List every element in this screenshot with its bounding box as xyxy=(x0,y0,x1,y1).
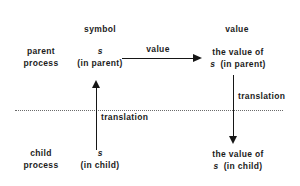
node-child-value-line1: the value of xyxy=(212,148,263,160)
right-translation-arrow-shaft xyxy=(233,75,234,137)
left-translation-arrow-head-icon xyxy=(92,80,100,88)
node-child-value: the value of s (in child) xyxy=(212,148,263,172)
node-parent-symbol-scope: (in parent) xyxy=(77,57,122,69)
row-label-child-process: child process xyxy=(23,147,58,171)
edge-label-right-translation: translation xyxy=(238,91,285,102)
left-translation-arrow-shaft xyxy=(96,87,97,150)
row-label-parent-line2: process xyxy=(23,57,58,69)
row-label-parent-line1: parent xyxy=(23,45,58,57)
edge-label-left-translation: translation xyxy=(101,112,148,123)
node-child-symbol-scope: (in child) xyxy=(81,159,120,171)
symbol-value-translation-diagram: symbol value parent process child proces… xyxy=(0,0,300,186)
column-header-value: value xyxy=(225,24,249,35)
node-child-value-name: s xyxy=(213,161,218,171)
node-parent-value-line2: s (in parent) xyxy=(210,58,266,70)
column-header-symbol: symbol xyxy=(84,24,116,35)
node-child-symbol: s (in child) xyxy=(81,147,120,171)
value-arrow-head-icon xyxy=(193,54,202,62)
row-label-child-line2: process xyxy=(23,159,58,171)
node-parent-value-scope: (in parent) xyxy=(220,59,265,69)
node-child-symbol-name: s xyxy=(81,147,120,159)
value-arrow-shaft xyxy=(122,58,194,59)
node-child-value-line2: s (in child) xyxy=(212,160,263,172)
edge-label-value: value xyxy=(146,44,170,55)
row-label-parent-process: parent process xyxy=(23,45,58,69)
right-translation-arrow-head-icon xyxy=(229,136,237,144)
process-boundary-divider xyxy=(15,110,283,111)
node-parent-value-name: s xyxy=(210,59,215,69)
node-parent-symbol-name: s xyxy=(77,45,122,57)
node-parent-value: the value of s (in parent) xyxy=(210,46,266,70)
node-parent-value-line1: the value of xyxy=(210,46,266,58)
row-label-child-line1: child xyxy=(23,147,58,159)
node-parent-symbol: s (in parent) xyxy=(77,45,122,69)
node-child-value-scope: (in child) xyxy=(224,161,263,171)
